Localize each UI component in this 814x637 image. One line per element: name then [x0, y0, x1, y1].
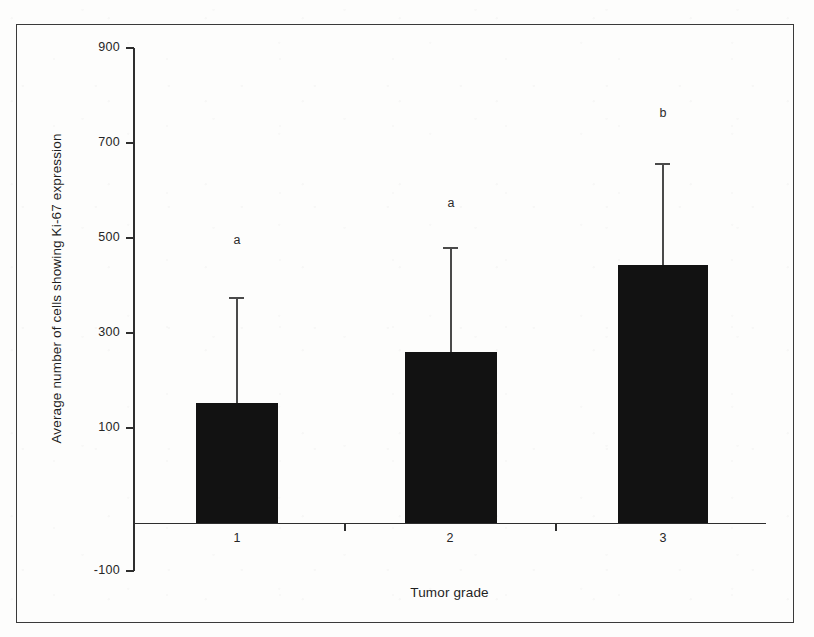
x-axis-tick-separator-1: [344, 523, 346, 531]
error-bar-cap-grade-1: [229, 297, 244, 299]
y-axis-tick-300: [126, 332, 134, 334]
y-axis-tick-900: [126, 47, 134, 49]
significance-letter-grade-2: a: [431, 196, 471, 210]
error-bar-stem-grade-3: [662, 163, 664, 265]
y-axis-tick-700: [126, 142, 134, 144]
error-bar-stem-grade-2: [450, 247, 452, 352]
significance-letter-grade-3: b: [643, 106, 683, 120]
y-axis-tick--100: [126, 570, 134, 572]
x-axis-label-grade-2: 2: [420, 531, 480, 545]
figure-canvas: 900 700 500 300 100 -100 1 2 3 a a b Ave…: [0, 0, 814, 637]
x-axis-label-grade-3: 3: [633, 531, 693, 545]
y-axis-label-100: 100: [66, 420, 120, 434]
y-axis-tick-100: [126, 427, 134, 429]
bar-grade-1: [196, 403, 278, 523]
y-axis-title: Average number of cells showing Ki-67 ex…: [49, 54, 64, 524]
y-axis-tick-500: [126, 237, 134, 239]
x-axis-label-grade-1: 1: [207, 531, 267, 545]
error-bar-stem-grade-1: [236, 297, 238, 403]
significance-letter-grade-1: a: [217, 233, 257, 247]
y-axis-label-300: 300: [66, 325, 120, 339]
y-axis-label-700: 700: [66, 135, 120, 149]
bar-grade-3: [618, 265, 708, 523]
y-axis-line: [133, 48, 135, 571]
y-axis-label--100: -100: [66, 563, 120, 577]
plot-area: 900 700 500 300 100 -100 1 2 3 a a b Ave…: [0, 0, 814, 637]
y-axis-label-500: 500: [66, 230, 120, 244]
error-bar-cap-grade-2: [443, 247, 458, 249]
error-bar-cap-grade-3: [655, 163, 670, 165]
bar-grade-2: [405, 352, 497, 523]
y-axis-label-900: 900: [66, 40, 120, 54]
x-axis-title: Tumor grade: [133, 585, 766, 600]
x-axis-tick-separator-2: [555, 523, 557, 531]
y-axis-tick-labels: 900 700 500 300 100 -100: [62, 0, 120, 600]
